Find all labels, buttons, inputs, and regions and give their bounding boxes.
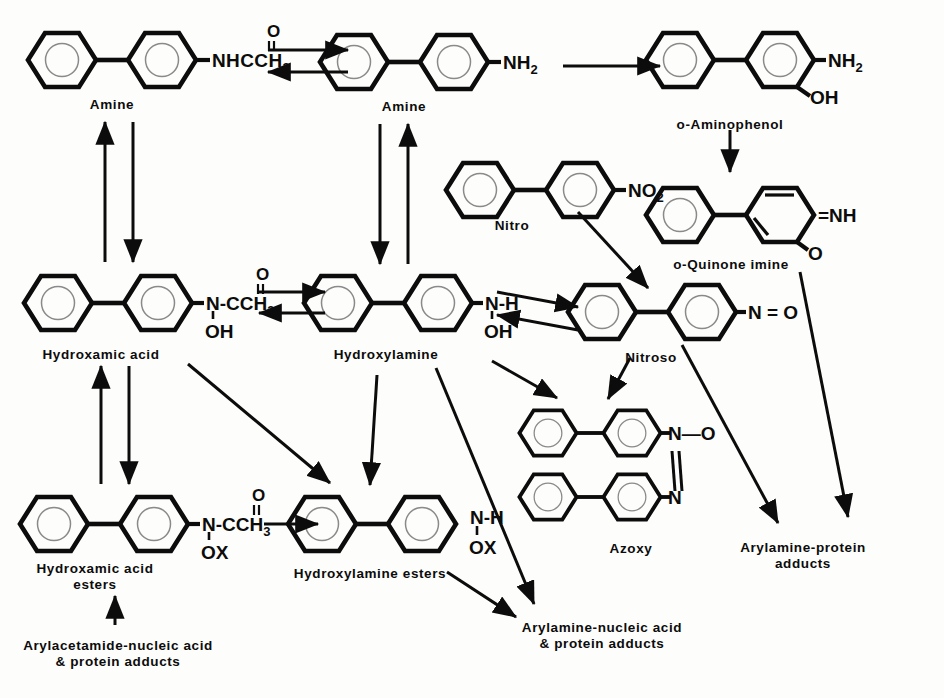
svg-text:O: O bbox=[808, 243, 823, 264]
label-o-aminophenol: o-Aminophenol bbox=[677, 117, 784, 133]
arrow-acetamide-hydroxamic-reversible bbox=[105, 122, 133, 262]
structure-o-quinone-imine: =NH O bbox=[646, 188, 857, 264]
svg-text:OH: OH bbox=[810, 87, 839, 108]
svg-text:=NH: =NH bbox=[818, 205, 857, 226]
structure-hydroxamic-acid-esters: N-CCH3 O OX bbox=[20, 486, 270, 563]
structure-hydroxamic-acid: N-CCH3 O OH bbox=[24, 265, 274, 342]
svg-text:OX: OX bbox=[201, 542, 229, 563]
arrow-nitro-to-nitroso bbox=[578, 212, 648, 288]
arrow-hydroxamic-to-esters bbox=[101, 366, 129, 484]
label-hydroxylamine: Hydroxylamine bbox=[334, 347, 439, 363]
structure-hydroxylamine: N-H OH bbox=[304, 276, 519, 342]
arrow-hydroxylamine-to-nucleic-adducts bbox=[436, 368, 534, 604]
label-hydroxamic-acid-esters: Hydroxamic acid esters bbox=[36, 561, 153, 593]
svg-text:OH: OH bbox=[484, 321, 513, 342]
svg-text:N-CCH3: N-CCH3 bbox=[202, 514, 270, 539]
structure-amine: NH2 bbox=[320, 35, 538, 89]
label-amine: Amine bbox=[382, 99, 426, 115]
label-nitro: Nitro bbox=[495, 218, 530, 234]
svg-text:NH2: NH2 bbox=[828, 50, 863, 75]
arrow-hydroxylamine-to-esters bbox=[370, 375, 377, 485]
svg-text:O: O bbox=[256, 265, 269, 284]
svg-text:O: O bbox=[252, 486, 265, 505]
structure-hydroxylamine-esters: N-H OX bbox=[288, 497, 504, 558]
structure-nitro: NO2 bbox=[446, 163, 664, 217]
label-amine-acetamide: Amine bbox=[90, 97, 134, 113]
terminal-label-arylamine-nucleic-adducts: Arylamine-nucleic acid & protein adducts bbox=[522, 620, 682, 652]
arrow-hydroxamic-to-hydroxylamine-esters bbox=[188, 364, 330, 483]
svg-text:N = O: N = O bbox=[748, 302, 798, 323]
structure-nitroso: N = O bbox=[568, 285, 798, 339]
label-nitroso: Nitroso bbox=[625, 350, 676, 366]
structure-acetamide: NHCCH3 O bbox=[28, 22, 290, 87]
label-azoxy: Azoxy bbox=[610, 541, 653, 557]
terminal-label-arylacetamide-adducts: Arylacetamide-nucleic acid & protein add… bbox=[23, 638, 213, 670]
pathway-diagram: NHCCH3 O NH2 NH2 OH bbox=[0, 0, 944, 698]
arrow-hydroxylamine-esters-to-nucleic-adducts bbox=[447, 572, 516, 617]
structure-azoxy: N—O N bbox=[519, 410, 715, 519]
svg-text:OH: OH bbox=[205, 321, 234, 342]
arrow-hydroxylamine-to-azoxy bbox=[492, 361, 557, 398]
arrow-amine-hydroxylamine-reversible bbox=[380, 124, 408, 264]
label-o-quinone-imine: o-Quinone imine bbox=[673, 257, 789, 273]
terminal-label-arylamine-protein-adducts: Arylamine-protein adducts bbox=[740, 540, 866, 572]
label-hydroxylamine-esters: Hydroxylamine esters bbox=[294, 566, 446, 582]
structure-o-aminophenol: NH2 OH bbox=[646, 33, 863, 108]
arrow-quinone-imine-to-protein-adducts bbox=[800, 272, 848, 517]
label-hydroxamic-acid: Hydroxamic acid bbox=[42, 347, 159, 363]
svg-text:N—O: N—O bbox=[668, 423, 716, 444]
svg-text:O: O bbox=[267, 22, 280, 41]
svg-text:NH2: NH2 bbox=[503, 52, 538, 77]
svg-text:OX: OX bbox=[469, 537, 497, 558]
